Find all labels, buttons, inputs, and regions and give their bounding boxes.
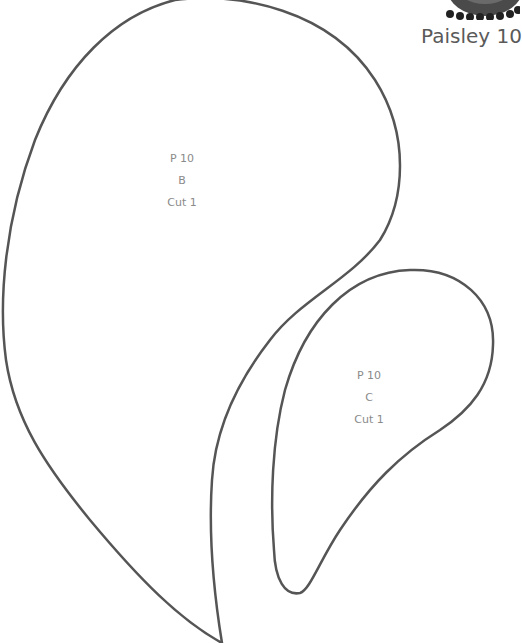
piece-b-pattern-number: P 10 — [142, 148, 222, 170]
pattern-title: Paisley 10 — [421, 24, 522, 48]
piece-b-letter: B — [142, 170, 222, 192]
piece-b-cut-count: Cut 1 — [142, 192, 222, 214]
piece-c-letter: C — [329, 387, 409, 409]
paisley-flower-thumbnail-icon — [430, 0, 520, 20]
piece-c-label: P 10 C Cut 1 — [329, 365, 409, 431]
piece-b-outline — [3, 0, 400, 643]
piece-b-label: P 10 B Cut 1 — [142, 148, 222, 214]
piece-c-outline — [272, 270, 493, 593]
piece-c-cut-count: Cut 1 — [329, 409, 409, 431]
piece-c-pattern-number: P 10 — [329, 365, 409, 387]
